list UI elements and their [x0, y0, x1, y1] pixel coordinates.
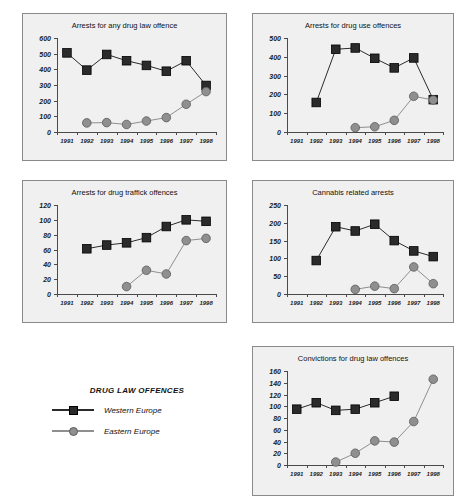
x-tick-label: 1991: [290, 138, 303, 144]
x-tick-label: 1998: [199, 300, 212, 306]
data-point: [122, 56, 131, 65]
x-tick-mark: [443, 465, 444, 468]
data-point: [162, 222, 171, 231]
data-point: [312, 98, 321, 107]
y-tick-label: 100: [255, 403, 281, 410]
y-tick-label: 300: [25, 82, 51, 89]
data-point: [429, 375, 438, 384]
chart-drug-use-offences: Arrests for drug use offences01002003004…: [252, 13, 454, 161]
y-tick-label: 120: [25, 202, 51, 209]
data-point: [182, 236, 191, 245]
x-tick-mark: [443, 294, 444, 297]
data-point: [122, 120, 131, 129]
x-tick-mark: [287, 465, 288, 468]
x-tick-label: 1991: [60, 300, 73, 306]
x-tick-mark: [57, 132, 58, 135]
x-tick-mark: [346, 465, 347, 468]
y-tick-label: 100: [255, 110, 281, 117]
legend-key-circle: [52, 425, 94, 437]
x-tick-label: 1991: [60, 138, 73, 144]
data-point: [331, 458, 340, 467]
x-tick-mark: [326, 132, 327, 135]
x-tick-mark: [443, 132, 444, 135]
data-point: [292, 405, 301, 414]
data-point: [409, 247, 418, 256]
y-tick-label: 200: [25, 97, 51, 104]
data-point: [409, 92, 418, 101]
x-tick-mark: [307, 294, 308, 297]
x-tick-label: 1991: [290, 471, 303, 477]
x-tick-label: 1996: [388, 300, 401, 306]
y-tick-label: 60: [255, 426, 281, 433]
legend-title: DRUG LAW OFFENCES: [52, 386, 222, 395]
data-point: [331, 222, 340, 231]
y-tick-label: 0: [25, 129, 51, 136]
y-tick-label: 500: [255, 35, 281, 42]
series-line-western-europe: [297, 396, 395, 410]
x-tick-mark: [216, 132, 217, 135]
y-tick-label: 20: [25, 276, 51, 283]
data-point: [390, 438, 399, 447]
x-tick-label: 1995: [368, 300, 381, 306]
x-tick-mark: [137, 294, 138, 297]
data-point: [182, 216, 191, 225]
x-tick-label: 1996: [160, 300, 173, 306]
x-tick-mark: [176, 294, 177, 297]
y-tick-label: 100: [25, 113, 51, 120]
y-tick-label: 0: [255, 291, 281, 298]
data-point: [331, 406, 340, 415]
y-tick-label: 500: [25, 50, 51, 57]
legend-label-western-europe: Western Europe: [104, 406, 162, 415]
x-tick-mark: [307, 132, 308, 135]
x-tick-label: 1997: [407, 471, 420, 477]
data-point: [182, 100, 191, 109]
data-point: [83, 119, 92, 128]
y-tick-label: 150: [255, 237, 281, 244]
x-tick-label: 1998: [427, 138, 440, 144]
x-tick-mark: [365, 294, 366, 297]
chart-title: Arrests for drug use offences: [253, 21, 453, 30]
y-tick-label: 40: [255, 438, 281, 445]
x-tick-label: 1995: [140, 300, 153, 306]
y-tick-label: 120: [255, 391, 281, 398]
data-point: [370, 54, 379, 63]
y-tick-label: 250: [255, 202, 281, 209]
x-tick-label: 1994: [120, 300, 133, 306]
x-tick-mark: [196, 294, 197, 297]
data-point: [102, 118, 111, 127]
y-tick-label: 600: [25, 35, 51, 42]
y-tick-label: 80: [25, 231, 51, 238]
x-tick-mark: [424, 294, 425, 297]
series-layer: [287, 38, 443, 132]
y-tick-label: 40: [25, 261, 51, 268]
data-point: [142, 266, 151, 275]
data-point: [102, 241, 111, 250]
series-layer: [287, 205, 443, 294]
data-point: [370, 437, 379, 446]
x-tick-mark: [156, 132, 157, 135]
x-tick-mark: [117, 132, 118, 135]
data-point: [351, 405, 360, 414]
legend-entry-eastern-europe: Eastern Europe: [52, 425, 222, 437]
data-point: [409, 417, 418, 426]
plot-area: 0204060801001201401601991199219931994199…: [287, 371, 443, 465]
data-point: [370, 220, 379, 229]
x-tick-label: 1997: [407, 300, 420, 306]
y-tick-label: 50: [255, 273, 281, 280]
y-tick-label: 160: [255, 368, 281, 375]
x-tick-mark: [365, 132, 366, 135]
data-point: [370, 122, 379, 131]
x-tick-label: 1995: [368, 471, 381, 477]
plot-area: 0100200300400500600199119921993199419951…: [57, 38, 216, 132]
data-point: [409, 263, 418, 272]
series-layer: [57, 38, 216, 132]
x-tick-label: 1994: [349, 138, 362, 144]
data-point: [370, 282, 379, 291]
x-tick-mark: [176, 132, 177, 135]
x-tick-label: 1996: [388, 471, 401, 477]
x-tick-mark: [97, 294, 98, 297]
x-tick-mark: [307, 465, 308, 468]
series-layer: [287, 371, 443, 465]
data-point: [429, 96, 438, 105]
y-tick-label: 400: [25, 66, 51, 73]
